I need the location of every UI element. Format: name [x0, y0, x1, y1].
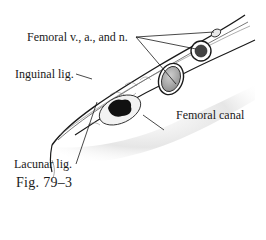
label-femoral-vessels: Femoral v., a., and n.	[27, 31, 128, 44]
femoral-artery	[191, 41, 211, 61]
figure-caption: Fig. 79–3	[16, 175, 72, 191]
label-femoral-canal: Femoral canal	[176, 109, 244, 122]
thigh-shading	[55, 85, 255, 161]
label-inguinal-ligament: Inguinal lig.	[15, 68, 74, 81]
label-lacunar-ligament: Lacunar lig.	[14, 158, 72, 171]
